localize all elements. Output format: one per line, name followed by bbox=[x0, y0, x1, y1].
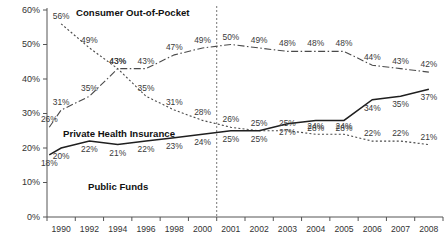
data-label: 48% bbox=[336, 38, 353, 48]
series-label-phi: Private Health Insurance bbox=[63, 128, 175, 139]
data-label: 35% bbox=[81, 83, 98, 93]
x-tick-label: 2008 bbox=[419, 224, 438, 234]
data-label: 47% bbox=[166, 42, 183, 52]
data-label: 35% bbox=[138, 83, 155, 93]
x-tick-label: 2004 bbox=[306, 224, 325, 234]
data-label: 24% bbox=[194, 137, 211, 147]
data-label: 48% bbox=[279, 38, 296, 48]
data-label: 49% bbox=[251, 35, 268, 45]
y-tick-label: 40% bbox=[22, 74, 40, 84]
y-tick-label: 0% bbox=[27, 212, 40, 222]
data-label: 43% bbox=[109, 56, 126, 66]
data-label: 49% bbox=[194, 35, 211, 45]
data-label: 28% bbox=[307, 123, 324, 133]
x-tick-label: 2005 bbox=[334, 224, 353, 234]
x-tick-label: 2000 bbox=[193, 224, 212, 234]
y-tick-label: 10% bbox=[22, 177, 40, 187]
data-label: 42% bbox=[420, 59, 437, 69]
x-tick-label: 2006 bbox=[363, 224, 382, 234]
x-tick-label: 1998 bbox=[165, 224, 184, 234]
x-tick-label: 2003 bbox=[278, 224, 297, 234]
data-label: 25% bbox=[251, 118, 268, 128]
line-chart: 0%10%20%30%40%50%60% 1990199219941996199… bbox=[0, 0, 448, 246]
x-tick-label: 2007 bbox=[391, 224, 410, 234]
data-label: 43% bbox=[392, 56, 409, 66]
data-label: 22% bbox=[392, 128, 409, 138]
data-label: 31% bbox=[53, 97, 70, 107]
data-label: 27% bbox=[279, 127, 296, 137]
data-label: 56% bbox=[53, 11, 70, 21]
data-label: 43% bbox=[138, 56, 155, 66]
data-label: 44% bbox=[364, 52, 381, 62]
y-tick-label: 60% bbox=[22, 5, 40, 15]
data-label: 23% bbox=[166, 141, 183, 151]
x-tick-label: 1990 bbox=[52, 224, 71, 234]
data-label: 28% bbox=[336, 123, 353, 133]
data-label: 25% bbox=[222, 134, 239, 144]
data-label: 37% bbox=[420, 92, 437, 102]
data-label: 28% bbox=[194, 107, 211, 117]
data-label: 48% bbox=[307, 38, 324, 48]
data-label: 21% bbox=[420, 132, 437, 142]
data-labels: 56%49%43%35%31%28%26%25%25%24%24%22%22%2… bbox=[41, 11, 438, 168]
series-label-pub: Public Funds bbox=[88, 181, 148, 192]
x-tick-label: 2001 bbox=[221, 224, 240, 234]
data-label: 21% bbox=[109, 148, 126, 158]
x-tick-label: 2002 bbox=[250, 224, 269, 234]
data-label: 50% bbox=[222, 32, 239, 42]
data-label: 25% bbox=[251, 134, 268, 144]
x-tick-label: 1992 bbox=[80, 224, 99, 234]
y-tick-label: 20% bbox=[22, 143, 40, 153]
data-label: 49% bbox=[81, 35, 98, 45]
data-label: 35% bbox=[392, 99, 409, 109]
x-tick-label: 1994 bbox=[108, 224, 127, 234]
data-label: 26% bbox=[41, 114, 58, 124]
series-line-dotted bbox=[61, 24, 429, 145]
y-tick-label: 30% bbox=[22, 108, 40, 118]
x-tick-label: 1996 bbox=[136, 224, 155, 234]
series-label-oop: Consumer Out-of-Pocket bbox=[76, 7, 190, 18]
data-label: 31% bbox=[166, 97, 183, 107]
y-tick-label: 50% bbox=[22, 39, 40, 49]
data-label: 26% bbox=[222, 114, 239, 124]
data-label: 22% bbox=[138, 144, 155, 154]
data-label: 34% bbox=[364, 103, 381, 113]
x-axis: 1990199219941996199820002001200220032004… bbox=[47, 217, 443, 234]
data-label: 20% bbox=[53, 151, 70, 161]
chart-container: 0%10%20%30%40%50%60% 1990199219941996199… bbox=[0, 0, 448, 246]
data-label: 22% bbox=[364, 128, 381, 138]
data-label: 22% bbox=[81, 144, 98, 154]
